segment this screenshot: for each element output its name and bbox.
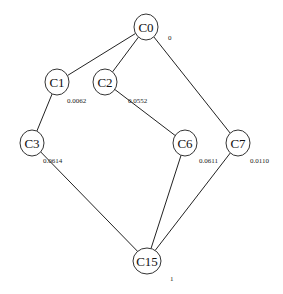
node-value-c6: 0.0611 xyxy=(199,157,218,165)
node-label: C15 xyxy=(136,254,158,269)
edges-group xyxy=(37,33,230,251)
node-value-c7: 0.0110 xyxy=(250,157,269,165)
node-value-c15: 1 xyxy=(170,275,174,283)
node-label: C1 xyxy=(49,75,64,90)
node-c15: C15 xyxy=(133,248,161,274)
node-value-c0: 0 xyxy=(168,34,172,42)
lattice-diagram: C0C1C2C3C6C7C15 00.00620.05520.06140.061… xyxy=(0,0,283,294)
node-c7: C7 xyxy=(226,130,250,156)
edge-c6-c15 xyxy=(151,155,181,248)
node-c0: C0 xyxy=(134,14,158,40)
node-value-c2: 0.0552 xyxy=(128,97,148,105)
nodes-group: C0C1C2C3C6C7C15 xyxy=(20,14,250,274)
node-values-group: 00.00620.05520.06140.06110.01101 xyxy=(43,34,269,283)
node-c6: C6 xyxy=(173,130,197,156)
edge-c0-c7 xyxy=(154,37,230,133)
node-value-c1: 0.0062 xyxy=(67,97,87,105)
node-value-c3: 0.0614 xyxy=(43,157,63,165)
node-c2: C2 xyxy=(93,69,117,95)
node-label: C7 xyxy=(230,136,246,151)
node-label: C6 xyxy=(177,136,193,151)
node-label: C0 xyxy=(138,20,153,35)
edge-c1-c3 xyxy=(37,94,52,131)
node-c3: C3 xyxy=(20,130,44,156)
node-label: C2 xyxy=(97,75,112,90)
edge-c0-c2 xyxy=(113,37,139,72)
node-c1: C1 xyxy=(45,69,69,95)
edge-c3-c15 xyxy=(41,152,138,251)
node-label: C3 xyxy=(24,136,39,151)
